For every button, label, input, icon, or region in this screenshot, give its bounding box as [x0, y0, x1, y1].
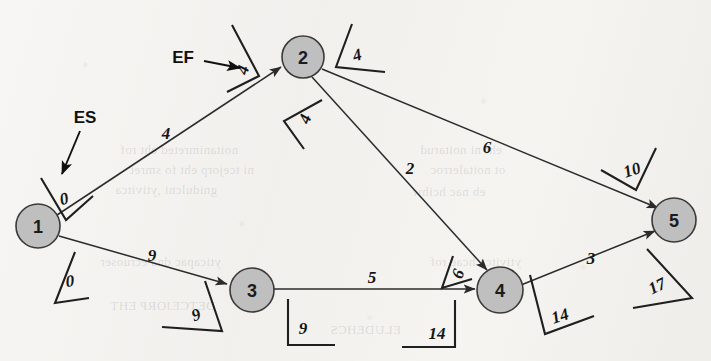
time-bracket-ef-edge45: 17: [633, 249, 692, 308]
time-value-es-node1: 0: [58, 189, 71, 210]
edge-duration-1-2: 4: [161, 124, 171, 143]
time-value-es-node3: 9: [299, 319, 308, 338]
time-bracket-ef-edge25: 10: [601, 148, 656, 190]
time-value-ef-edge12: 4: [232, 63, 253, 77]
callout-ef: EF: [172, 48, 240, 69]
time-value-ef-edge45: 17: [645, 273, 670, 298]
node-4[interactable]: 4: [477, 267, 523, 313]
time-bracket-ef-node1: 0: [55, 252, 89, 303]
node-2-label: 2: [298, 48, 308, 68]
node-3-label: 3: [247, 281, 257, 301]
time-bracket-es-node4: 14: [530, 275, 594, 334]
time-bracket-ef-edge12: 4: [227, 25, 259, 92]
time-value-ef-node1: 0: [65, 271, 76, 291]
callout-annotations-group: ES EF: [62, 48, 240, 175]
node-1[interactable]: 1: [16, 204, 60, 248]
callout-ef-label: EF: [172, 48, 194, 67]
time-bracket-ef-edge13: 9: [162, 281, 222, 331]
edge-duration-3-4: 5: [368, 268, 377, 287]
time-bracket-ef-edge24: 6: [442, 256, 472, 288]
callout-es: ES: [62, 108, 96, 175]
edge-duration-1-3: 9: [148, 246, 157, 265]
time-value-es-node4: 14: [549, 304, 571, 327]
edge-2-to-4: [312, 77, 487, 270]
edge-duration-4-5: 3: [586, 249, 596, 268]
edge-duration-labels: 4 9 6 2 5 3: [148, 124, 596, 287]
network-diagram-figure: noitanimreted eht rof ni tcejorp eht fo …: [0, 0, 711, 361]
time-bracket-es-node3: 9: [288, 299, 335, 345]
node-1-label: 1: [33, 217, 43, 237]
edge-duration-2-4: 2: [405, 159, 415, 178]
time-value-es-node2-bottom: 4: [294, 112, 315, 127]
diagram-canvas: 4 9 6 2 5 3 0 0 4: [0, 0, 711, 361]
time-bracket-es-node2-right: 4: [336, 24, 385, 72]
time-value-ef-edge34: 14: [429, 324, 446, 343]
callout-es-arrow: [62, 131, 80, 174]
time-value-ef-edge24: 6: [448, 266, 469, 281]
node-4-label: 4: [495, 281, 505, 301]
node-5[interactable]: 5: [652, 198, 696, 242]
time-bracket-es-node2-bottom: 4: [284, 100, 322, 149]
time-brackets-group: 0 0 4 4 4: [41, 24, 692, 347]
callout-es-label: ES: [74, 108, 97, 127]
node-5-label: 5: [669, 211, 679, 231]
edge-duration-2-5: 6: [483, 138, 492, 157]
time-value-es-node2-right: 4: [349, 45, 363, 66]
node-3[interactable]: 3: [230, 268, 274, 312]
time-value-ef-edge13: 9: [189, 304, 204, 325]
node-2[interactable]: 2: [282, 36, 324, 78]
time-value-ef-edge25: 10: [621, 158, 644, 181]
time-bracket-ef-edge34: 14: [402, 300, 455, 347]
edge-1-to-3: [59, 236, 227, 284]
